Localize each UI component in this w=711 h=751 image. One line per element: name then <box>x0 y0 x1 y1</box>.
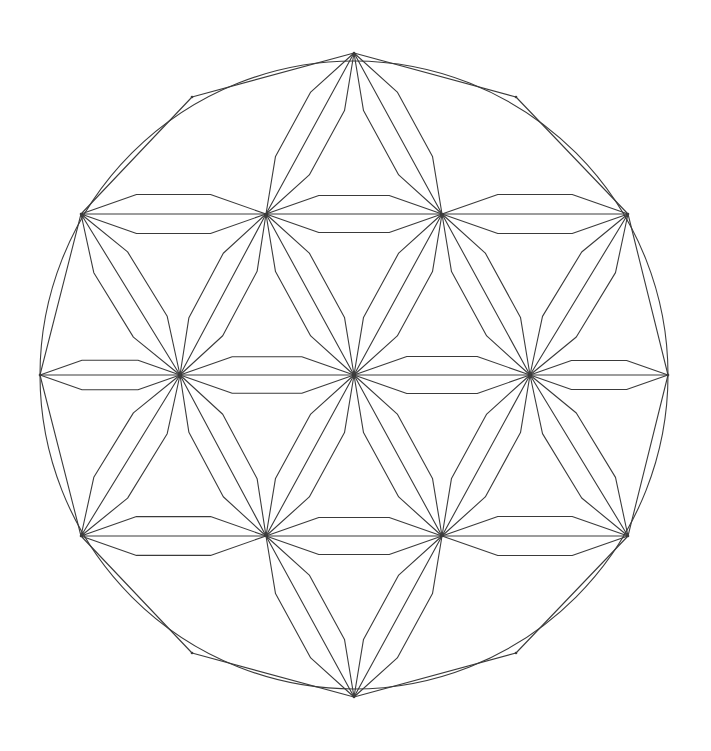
lattice-node <box>441 535 444 538</box>
lattice-node <box>353 374 356 377</box>
lattice-edge <box>516 97 628 214</box>
lattice-node <box>39 374 42 377</box>
lens-shape <box>354 357 530 375</box>
lattice-node <box>667 374 670 377</box>
lattice-edge <box>354 53 442 214</box>
lens-shape <box>530 361 668 375</box>
lattice-node <box>191 96 194 99</box>
lens-shape <box>442 194 628 214</box>
lens-shape <box>81 517 266 536</box>
lens-shape <box>442 214 628 234</box>
figure-root: Triangular lattice mandala inside a circ… <box>0 0 711 751</box>
lattice-node <box>515 96 518 99</box>
lattice-edge <box>628 375 668 536</box>
lattice-edge <box>354 536 442 697</box>
lens-shape <box>266 196 442 214</box>
lattice-edge <box>530 214 628 375</box>
lattice-edge <box>266 53 354 214</box>
lens-shape <box>81 536 266 555</box>
lens-shape <box>40 375 180 390</box>
lattice-edge <box>354 375 442 536</box>
lattice-node <box>529 374 532 377</box>
lattice-edge <box>180 214 266 375</box>
lattice-edge <box>81 536 192 653</box>
lattice-node <box>353 52 356 55</box>
lens-shape <box>354 375 530 393</box>
lattice-edge <box>442 375 530 536</box>
lattice-edge <box>530 375 628 536</box>
lattice-node <box>441 213 444 216</box>
lattice-edge <box>442 214 530 375</box>
lattice-node <box>265 213 268 216</box>
lens-shape <box>530 375 668 389</box>
lattice-edge <box>40 214 81 375</box>
lattice-edge <box>266 214 354 375</box>
lens-shape <box>266 518 442 536</box>
lens-shape <box>180 375 354 393</box>
lattice-node <box>265 535 268 538</box>
lens-shape <box>266 536 442 554</box>
lattice-edge <box>266 536 354 697</box>
lattice-node <box>627 213 630 216</box>
lens-shape <box>40 360 180 375</box>
lattice-node <box>80 213 83 216</box>
lattice-edge <box>40 375 81 536</box>
lattice-edge <box>354 214 442 375</box>
lattice-edge <box>628 214 668 375</box>
lattice-node <box>179 374 182 377</box>
lens-shape <box>180 357 354 375</box>
lattice-edge <box>81 97 192 214</box>
lens-shape <box>442 536 628 556</box>
lattice-edge <box>180 375 266 536</box>
lattice-edge <box>81 214 180 375</box>
lattice-node <box>515 652 518 655</box>
lattice-edge <box>266 375 354 536</box>
lens-shape <box>266 214 442 232</box>
lattice-edge <box>81 375 180 536</box>
lattice-node <box>191 652 194 655</box>
lattice-edge <box>516 536 628 653</box>
lattice-node <box>353 696 356 699</box>
lattice-node <box>627 535 630 538</box>
lens-shape <box>81 195 266 214</box>
lattice-node <box>80 535 83 538</box>
lens-shape <box>442 516 628 536</box>
lens-shape <box>81 214 266 233</box>
lattice-diagram: Triangular lattice mandala inside a circ… <box>0 0 711 751</box>
